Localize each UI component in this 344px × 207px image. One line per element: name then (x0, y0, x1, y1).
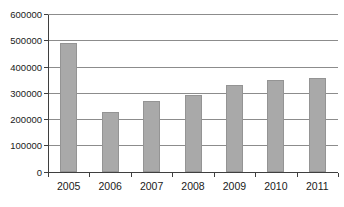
x-tick (255, 173, 256, 177)
bar (102, 112, 119, 172)
y-tick (44, 119, 48, 120)
y-tick (44, 40, 48, 41)
x-axis-line (48, 172, 338, 173)
gridline (48, 14, 338, 15)
y-axis-tick-label: 400000 (2, 63, 42, 72)
y-tick (44, 14, 48, 15)
x-tick (338, 173, 339, 177)
x-axis-tick-label: 2011 (297, 181, 338, 192)
bar (185, 95, 202, 172)
x-tick (89, 173, 90, 177)
x-axis-tick-label: 2006 (89, 181, 130, 192)
x-axis-tick-label: 2005 (48, 181, 89, 192)
x-axis-tick-label: 2010 (255, 181, 296, 192)
bar (143, 101, 160, 172)
y-axis-tick-label: 600000 (2, 10, 42, 19)
x-tick (172, 173, 173, 177)
x-tick (48, 173, 49, 177)
x-tick (214, 173, 215, 177)
gridline (48, 67, 338, 68)
y-tick (44, 67, 48, 68)
x-axis-tick-label: 2009 (214, 181, 255, 192)
y-axis-tick-label: 200000 (2, 115, 42, 124)
bar (226, 85, 243, 172)
x-tick (131, 173, 132, 177)
x-tick (297, 173, 298, 177)
bar (60, 43, 77, 172)
y-axis-tick-label: 0 (2, 168, 42, 177)
y-axis-tick-label: 300000 (2, 89, 42, 98)
x-axis-tick-label: 2007 (131, 181, 172, 192)
y-tick (44, 145, 48, 146)
gridline (48, 40, 338, 41)
y-axis-tick-label: 100000 (2, 141, 42, 150)
y-tick (44, 93, 48, 94)
bar-chart: 0100000200000300000400000500000600000 20… (0, 0, 344, 207)
x-axis-tick-label: 2008 (172, 181, 213, 192)
bar (309, 78, 326, 173)
y-axis-tick-label: 500000 (2, 36, 42, 45)
bar (267, 80, 284, 172)
y-axis-line (48, 15, 49, 174)
